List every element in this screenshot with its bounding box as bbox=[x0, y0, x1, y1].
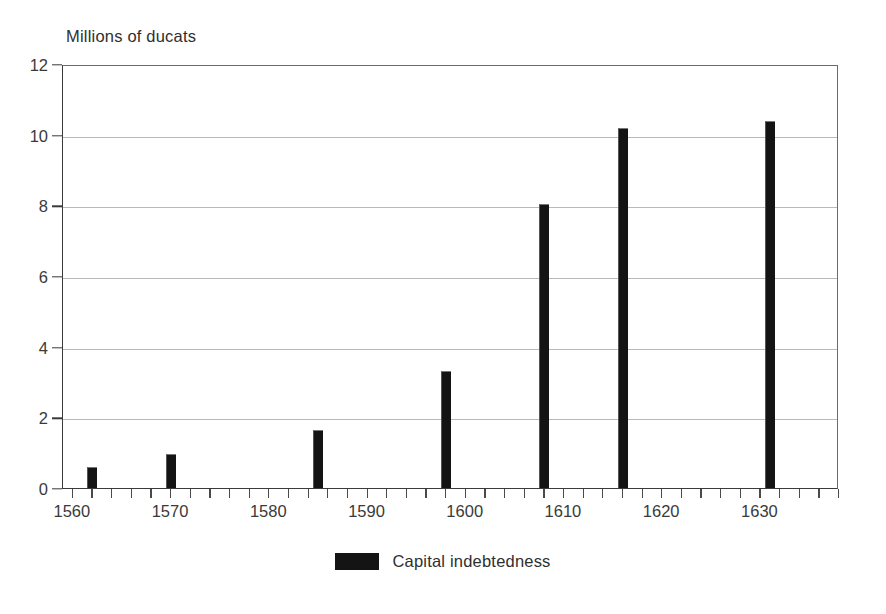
y-axis-title: Millions of ducats bbox=[66, 27, 196, 46]
x-axis-minor-tick bbox=[563, 489, 564, 498]
bar bbox=[87, 467, 97, 488]
x-axis-minor-tick bbox=[209, 489, 210, 498]
legend-swatch-icon bbox=[335, 553, 379, 570]
x-axis-minor-tick bbox=[484, 489, 485, 498]
x-axis-minor-tick bbox=[700, 489, 701, 498]
x-axis-minor-tick bbox=[131, 489, 132, 498]
x-axis-tick-label: 1580 bbox=[228, 502, 308, 522]
x-axis-minor-ticks bbox=[62, 489, 838, 501]
x-axis-minor-tick bbox=[504, 489, 505, 498]
x-axis-minor-tick bbox=[799, 489, 800, 498]
y-axis-tick bbox=[52, 206, 62, 207]
bar bbox=[618, 128, 628, 488]
x-axis-minor-tick bbox=[425, 489, 426, 498]
x-axis-minor-tick bbox=[327, 489, 328, 498]
x-axis-tick-label: 1560 bbox=[32, 502, 112, 522]
x-axis-minor-tick bbox=[681, 489, 682, 498]
gridline bbox=[63, 207, 837, 208]
legend-item-capital-indebtedness: Capital indebtedness bbox=[335, 552, 550, 571]
y-axis-tick-label: 6 bbox=[14, 269, 48, 286]
y-axis-tick bbox=[52, 488, 62, 489]
x-axis-minor-tick bbox=[445, 489, 446, 498]
x-axis-minor-tick bbox=[642, 489, 643, 498]
x-axis-tick-label: 1620 bbox=[621, 502, 701, 522]
bar bbox=[765, 121, 775, 488]
x-axis-minor-tick bbox=[543, 489, 544, 498]
bar bbox=[313, 430, 323, 488]
y-axis-tick bbox=[52, 418, 62, 419]
y-axis-tick-label: 12 bbox=[14, 57, 48, 74]
bar bbox=[441, 371, 451, 488]
x-axis-minor-tick bbox=[150, 489, 151, 498]
gridline bbox=[63, 278, 837, 279]
x-axis-minor-tick bbox=[661, 489, 662, 498]
x-axis-minor-tick bbox=[622, 489, 623, 498]
legend-item-label: Capital indebtedness bbox=[392, 552, 550, 571]
x-axis-minor-tick bbox=[524, 489, 525, 498]
y-axis-tick-label: 2 bbox=[14, 410, 48, 427]
x-axis-minor-tick bbox=[229, 489, 230, 498]
y-axis-tick bbox=[52, 135, 62, 136]
x-axis-minor-tick bbox=[602, 489, 603, 498]
x-axis-minor-tick bbox=[720, 489, 721, 498]
y-axis-tick-label: 4 bbox=[14, 339, 48, 356]
x-axis-minor-tick bbox=[190, 489, 191, 498]
x-axis-minor-tick bbox=[249, 489, 250, 498]
x-axis-minor-tick bbox=[386, 489, 387, 498]
x-axis-minor-tick bbox=[367, 489, 368, 498]
x-axis-minor-tick bbox=[779, 489, 780, 498]
y-axis-tick bbox=[52, 347, 62, 348]
x-axis-minor-tick bbox=[111, 489, 112, 498]
x-axis-tick-label: 1570 bbox=[130, 502, 210, 522]
x-axis-tick-label: 1630 bbox=[719, 502, 799, 522]
chart-figure: Millions of ducats 024681012 15601570158… bbox=[0, 0, 886, 614]
x-axis-minor-tick bbox=[288, 489, 289, 498]
x-axis-minor-tick bbox=[583, 489, 584, 498]
x-axis-tick-label: 1610 bbox=[523, 502, 603, 522]
plot-area bbox=[62, 65, 838, 489]
bar bbox=[166, 454, 176, 488]
x-axis-minor-tick bbox=[347, 489, 348, 498]
x-axis-minor-tick bbox=[759, 489, 760, 498]
x-axis-minor-tick bbox=[72, 489, 73, 498]
x-axis-minor-tick bbox=[465, 489, 466, 498]
x-axis-minor-tick bbox=[308, 489, 309, 498]
x-axis-minor-tick bbox=[91, 489, 92, 498]
y-axis-tick-label: 10 bbox=[14, 127, 48, 144]
y-axis-tick-label: 0 bbox=[14, 481, 48, 498]
x-axis-minor-tick bbox=[838, 489, 839, 498]
x-axis-minor-tick bbox=[818, 489, 819, 498]
x-axis-minor-tick bbox=[406, 489, 407, 498]
x-axis-tick-label: 1590 bbox=[327, 502, 407, 522]
y-axis-tick bbox=[52, 64, 62, 65]
x-axis-minor-tick bbox=[740, 489, 741, 498]
x-axis-minor-tick bbox=[170, 489, 171, 498]
bar bbox=[539, 204, 549, 488]
chart-legend: Capital indebtedness bbox=[0, 552, 886, 571]
x-axis-tick-label: 1600 bbox=[425, 502, 505, 522]
x-axis-tick-labels: 15601570158015901600161016201630 bbox=[0, 502, 886, 532]
y-axis-tick-label: 8 bbox=[14, 198, 48, 215]
gridline bbox=[63, 137, 837, 138]
y-axis-tick bbox=[52, 276, 62, 277]
gridline bbox=[63, 349, 837, 350]
x-axis-minor-tick bbox=[268, 489, 269, 498]
